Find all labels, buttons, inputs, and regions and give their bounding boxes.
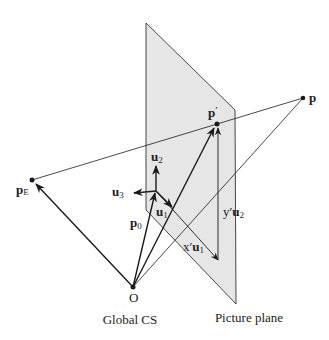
projection-diagram: p p′ pE u2 u3 u1 p0 x′u1 y′u2 O Global C… — [0, 0, 329, 340]
label-u3: u3 — [112, 184, 124, 200]
caption-global-cs: Global CS — [103, 312, 158, 327]
label-y-u2: y′u2 — [223, 204, 244, 220]
point-pe-dot — [30, 178, 35, 183]
label-p: p — [309, 90, 316, 105]
point-pprime-dot — [215, 122, 220, 127]
label-origin: O — [129, 290, 138, 305]
origin-dot — [131, 285, 136, 290]
label-pe: pE — [16, 182, 29, 197]
caption-picture-plane: Picture plane — [215, 310, 283, 325]
label-p0: p0 — [130, 215, 142, 231]
point-p-dot — [301, 96, 306, 101]
vector-p0 — [133, 193, 155, 287]
